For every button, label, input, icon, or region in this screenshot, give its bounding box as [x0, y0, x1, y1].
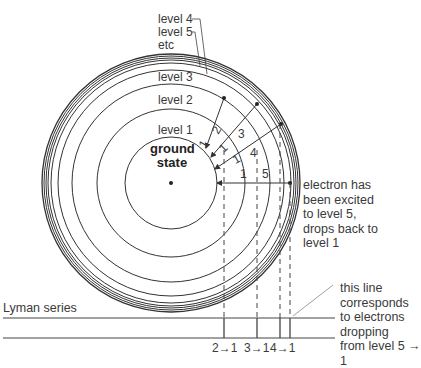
nucleus-dot [169, 181, 173, 185]
annotation-line: this line corresponds to electrons dropp… [340, 281, 421, 368]
annotation-leader [293, 285, 333, 316]
label-level-3: level 3 [158, 70, 193, 84]
label-level-5: level 5 [158, 25, 193, 39]
transition-3-from: 3 [238, 127, 245, 141]
label-level-2: level 2 [158, 93, 193, 107]
label-state: state [150, 155, 194, 171]
label-lyman-series: Lyman series [3, 301, 77, 315]
annotation-excited: electron has been excited to level 5, dr… [303, 178, 378, 251]
spectrum-label-3-1: 3→1 [244, 341, 269, 355]
label-etc: etc [158, 38, 174, 52]
transition-5-to: 1 [240, 167, 247, 181]
label-level-1: level 1 [158, 123, 193, 137]
transition-4-from: 4 [250, 146, 257, 160]
spectrum-label-4-1: 4→1 [270, 341, 295, 355]
label-level-4: level 4 [158, 12, 193, 26]
spectrum-label-2-1: 2→1 [212, 341, 237, 355]
transition-5-from: 5 [262, 167, 269, 181]
